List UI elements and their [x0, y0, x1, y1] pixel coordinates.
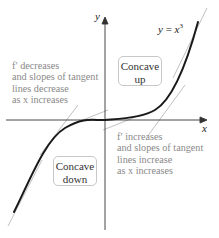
left-annotation-line-3: lines decrease — [12, 83, 98, 94]
y-axis-label: y — [95, 10, 100, 22]
concave-down-label-box: Concave down — [53, 156, 97, 186]
concave-down-line-1: Concave — [54, 160, 96, 173]
tangent-lines — [8, 8, 207, 226]
concave-up-line-2: up — [119, 73, 161, 86]
left-annotation-line-2: and slopes of tangent — [12, 71, 98, 82]
right-annotation-line-1: f′ increases — [117, 131, 203, 142]
left-annotation-line-4: as x increases — [12, 94, 98, 105]
right-annotation-line-4: as x increases — [117, 165, 203, 176]
left-annotation-line-1: f′ decreases — [12, 60, 98, 71]
right-annotation-line-3: lines increase — [117, 154, 203, 165]
concave-up-line-1: Concave — [119, 60, 161, 73]
tangent-line-left-lower — [8, 160, 42, 226]
concave-up-label-box: Concave up — [118, 56, 162, 86]
cubic-curve — [14, 22, 198, 212]
y-axis-arrow-icon — [102, 17, 108, 24]
right-annotation: f′ increases and slopes of tangent lines… — [117, 131, 203, 177]
concave-down-line-2: down — [54, 173, 96, 186]
left-annotation: f′ decreases and slopes of tangent lines… — [12, 60, 98, 106]
tangent-line-right-upper — [173, 8, 207, 78]
function-label-equals: = — [163, 23, 175, 35]
axes — [6, 17, 207, 230]
function-label: y = x3 — [158, 22, 183, 35]
concavity-diagram — [0, 0, 219, 238]
right-annotation-line-2: and slopes of tangent — [117, 142, 203, 153]
function-label-exponent: 3 — [180, 22, 184, 30]
